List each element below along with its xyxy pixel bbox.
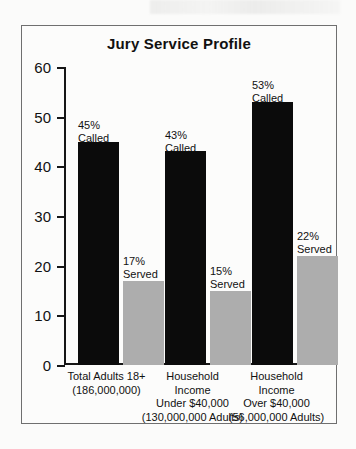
called-pct-group-1: 45% (78, 119, 109, 132)
y-tick-10: 10 (57, 315, 65, 317)
category-line-1-group-3: Household (214, 370, 339, 384)
bar-called-group-3 (252, 102, 293, 365)
y-tick-label-10: 10 (34, 307, 51, 324)
y-tick-40: 40 (57, 166, 65, 168)
y-tick-0: 0 (57, 365, 65, 367)
served-word-group-3: Served (297, 243, 332, 256)
called-pct-group-2: 43% (165, 129, 196, 142)
category-line-2-group-3: Income (214, 384, 339, 398)
served-pct-group-1: 17% (123, 255, 158, 268)
bar-label-served-group-3: 22% Served (297, 230, 332, 255)
y-tick-50: 50 (57, 117, 65, 119)
served-word-group-1: Served (123, 268, 158, 281)
y-tick-label-30: 30 (34, 208, 51, 225)
bar-label-called-group-2: 43% Called (165, 129, 196, 154)
y-tick-20: 20 (57, 266, 65, 268)
y-tick-label-50: 50 (34, 108, 51, 125)
served-word-group-2: Served (210, 278, 245, 291)
called-word-group-3: Called (252, 92, 283, 105)
bar-served-group-1 (123, 281, 164, 365)
y-tick-60: 60 (57, 67, 65, 69)
y-tick-30: 30 (57, 216, 65, 218)
y-tick-label-20: 20 (34, 257, 51, 274)
y-tick-label-40: 40 (34, 158, 51, 175)
bar-label-served-group-1: 17% Served (123, 255, 158, 280)
bar-label-served-group-2: 15% Served (210, 265, 245, 290)
called-word-group-2: Called (165, 142, 196, 155)
bar-called-group-1 (78, 142, 119, 366)
served-pct-group-2: 15% (210, 265, 245, 278)
scan-bleed-artifact (150, 0, 340, 14)
bar-called-group-2 (165, 151, 206, 365)
plot-area: 60 50 40 30 20 10 0 45% Called 17% Serve… (64, 67, 319, 365)
category-label-group-3: Household Income Over $40,000 (56,000,00… (214, 370, 339, 424)
y-tick-label-60: 60 (34, 59, 51, 76)
bar-served-group-2 (210, 291, 251, 366)
called-pct-group-3: 53% (252, 79, 283, 92)
bar-label-called-group-3: 53% Called (252, 79, 283, 104)
category-line-3-group-3: Over $40,000 (214, 397, 339, 411)
bar-label-called-group-1: 45% Called (78, 119, 109, 144)
served-pct-group-3: 22% (297, 230, 332, 243)
bar-served-group-3 (297, 256, 338, 365)
category-line-4-group-3: (56,000,000 Adults) (214, 411, 339, 425)
called-word-group-1: Called (78, 132, 109, 145)
chart-frame: Jury Service Profile 60 50 40 30 20 10 0 (21, 25, 337, 424)
chart-title: Jury Service Profile (22, 35, 336, 52)
